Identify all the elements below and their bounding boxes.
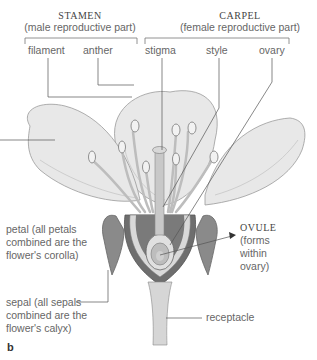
label-sepal: sepal (all sepals combined are the flowe… [6, 296, 87, 335]
sepal-line-2: combined are the [6, 309, 87, 322]
petal-line-3: flower's corolla) [6, 249, 87, 262]
leader-anther [98, 58, 134, 85]
label-petal: petal (all petals combined are the flowe… [6, 223, 87, 262]
ovule-line-1: (forms [240, 234, 276, 247]
carpel-bracket [145, 38, 289, 44]
sepal-line-1: sepal (all sepals [6, 296, 87, 309]
label-ovule: OVULE (forms within ovary) [240, 221, 276, 273]
petal-line-1: petal (all petals [6, 223, 87, 236]
stamen-bracket [25, 38, 137, 44]
ovule-line-3: ovary) [240, 260, 276, 273]
ovule-line-2: within [240, 247, 276, 260]
leader-filament [48, 58, 132, 97]
ovule-title: OVULE [240, 221, 276, 234]
sepal-line-3: flower's calyx) [6, 322, 87, 335]
receptacle [148, 282, 172, 345]
label-receptacle: receptacle [206, 311, 254, 323]
petal-line-2: combined are the [6, 236, 87, 249]
ovule-arrowhead [229, 232, 236, 239]
petals [27, 91, 305, 205]
panel-letter: b [7, 341, 14, 353]
